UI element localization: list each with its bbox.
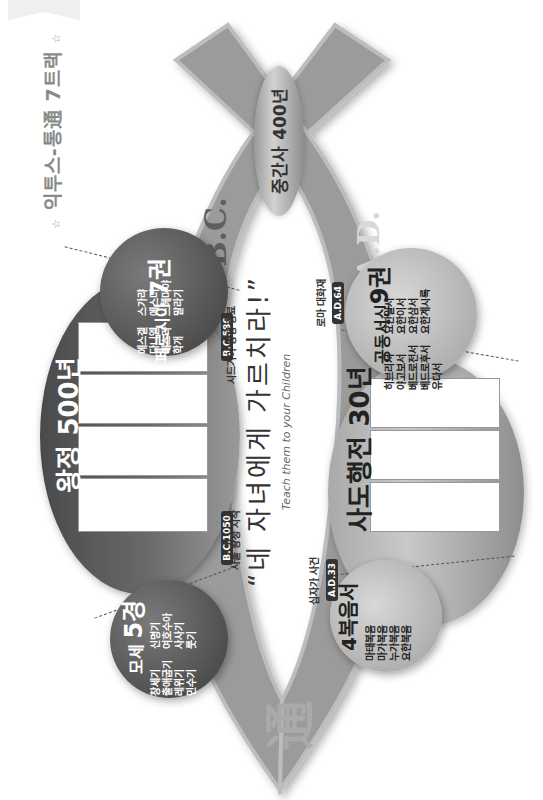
- book: 베드로전서: [408, 345, 420, 390]
- epistles-books-col-2: 요한일서 요한이서 요한삼서 요한계시록: [384, 289, 432, 334]
- gospels-books: 마태복음 마가복음 누가복음 요한복음: [365, 581, 415, 661]
- gospels-books-col: 마태복음 마가복음 누가복음 요한복음: [365, 625, 413, 661]
- book: 민수기: [186, 660, 198, 696]
- persia-books-col-1: 에스겔 다니엘 에스라 학개: [137, 327, 185, 354]
- epistles-books: 히브리서 야고보서 베드로전서 베드로후서 유다서 요한일서 요한이서 요한삼서…: [384, 260, 446, 390]
- book: 출애굽기: [162, 660, 174, 696]
- book: 야고보서: [396, 345, 408, 390]
- moses-books-col-1: 창세기 출애굽기 레위기 민수기: [150, 660, 198, 696]
- book: 유다서: [432, 345, 444, 390]
- quote-close-mark: ”: [244, 275, 274, 291]
- kingdom-panel-4: [78, 478, 208, 532]
- quote-main: “네 자녀에게 가르치라!”: [238, 287, 272, 587]
- book: 룻기: [186, 613, 198, 649]
- date-tag: A.D.64: [332, 282, 344, 324]
- book: 신명기: [150, 613, 162, 649]
- quote-open-mark: “: [244, 571, 274, 587]
- kingdom-count: 500년: [54, 357, 84, 435]
- epistles-books-col-1: 히브리서 야고보서 베드로전서 베드로후서 유다서: [384, 345, 444, 390]
- persia-books: 에스겔 다니엘 에스라 학개 스가랴 에스더 느헤미야 말라기: [137, 244, 187, 354]
- acts-end-date: A.D.64: [326, 278, 340, 328]
- gospels-title: 4복음서: [333, 567, 367, 667]
- book: 사사기: [174, 613, 186, 649]
- acts-title-text: 사도행전: [345, 436, 375, 532]
- book: 말라기: [173, 280, 185, 316]
- book: 느헤미야: [161, 280, 173, 316]
- book: 마태복음: [365, 625, 377, 661]
- acts-start-event: 십자가 사건: [306, 551, 320, 611]
- acts-panel-2: [370, 430, 500, 480]
- quote-subtitle: Teach them to your Children: [280, 352, 294, 512]
- book: 요한복음: [401, 625, 413, 661]
- moses-books: 창세기 출애굽기 레위기 민수기 신명기 여호수아 사사기 룻기: [150, 586, 200, 696]
- kingdom-title-text: 왕정: [54, 445, 84, 493]
- book: 스가랴: [137, 280, 149, 316]
- kingdom-end-event: 시드기야 왕정 종료: [223, 300, 237, 390]
- acts-end-event: 로마 대화재: [313, 273, 327, 333]
- gospels-title-text: 4복음서: [337, 583, 361, 651]
- quote-text: 네 자녀에게 가르치라!: [244, 292, 274, 571]
- book: 누가복음: [389, 625, 401, 661]
- intertestament-label: 중간사 400년: [266, 66, 292, 216]
- kingdom-panel-3: [78, 426, 208, 476]
- book: 요한계시록: [420, 289, 432, 334]
- book: 요한삼서: [408, 289, 420, 334]
- book: 에스라: [161, 327, 173, 354]
- book: 요한일서: [384, 289, 396, 334]
- date-tag: A.D.33: [326, 559, 338, 601]
- moses-books-col-2: 신명기 여호수아 사사기 룻기: [150, 613, 198, 649]
- book: 다니엘: [149, 327, 161, 354]
- book: 창세기: [150, 660, 162, 696]
- tong-character: 通: [250, 690, 310, 760]
- acts-title: 사도행전 30년: [339, 359, 373, 539]
- book: 에스더: [149, 280, 161, 316]
- book: 학개: [173, 327, 185, 354]
- acts-start-date: A.D.33: [320, 555, 334, 605]
- moses-count: 5경: [120, 600, 148, 639]
- book: 요한이서: [396, 289, 408, 334]
- moses-title: 모세 5경: [114, 582, 144, 692]
- kingdom-title: 왕정 500년: [48, 330, 82, 520]
- book: 마가복음: [377, 625, 389, 661]
- book: 베드로후서: [420, 345, 432, 390]
- book: 여호수아: [162, 613, 174, 649]
- book: 레위기: [174, 660, 186, 696]
- book: 에스겔: [137, 327, 149, 354]
- moses-title-text: 모세: [127, 644, 146, 674]
- persia-books-col-2: 스가랴 에스더 느헤미야 말라기: [137, 280, 185, 316]
- kingdom-panel-2: [78, 374, 208, 424]
- book: 히브리서: [384, 345, 396, 390]
- acts-panel-3: [370, 482, 500, 532]
